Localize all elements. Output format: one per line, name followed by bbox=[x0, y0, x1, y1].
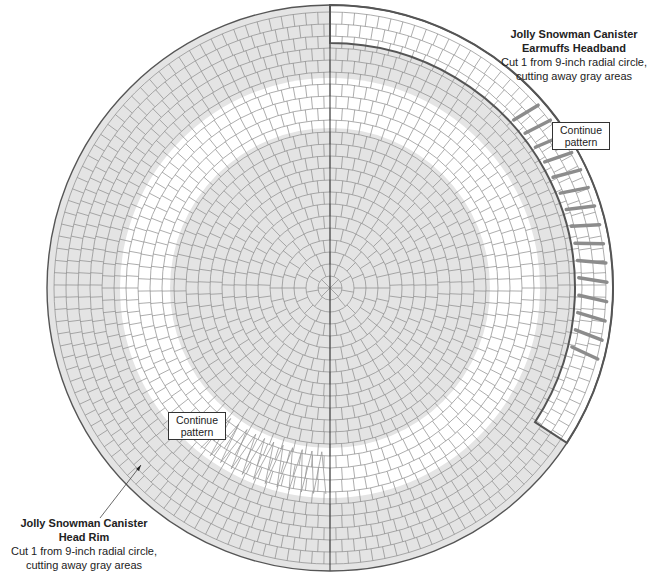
callout-line1: Continue bbox=[556, 124, 606, 136]
rim-label: Jolly Snowman Canister Head Rim Cut 1 fr… bbox=[0, 516, 168, 572]
radial-circle-pattern bbox=[0, 0, 660, 585]
headband-desc-line2: cutting away gray areas bbox=[488, 69, 660, 83]
callout-line2: pattern bbox=[172, 426, 222, 438]
callout-line1: Continue bbox=[172, 414, 222, 426]
callout-line2: pattern bbox=[556, 136, 606, 148]
rim-desc-line1: Cut 1 from 9-inch radial circle, bbox=[0, 544, 168, 558]
rim-continue-pattern-callout: Continue pattern bbox=[168, 412, 226, 440]
headband-title-line1: Jolly Snowman Canister bbox=[488, 27, 660, 41]
headband-title-line2: Earmuffs Headband bbox=[488, 41, 660, 55]
headband-continue-pattern-callout: Continue pattern bbox=[552, 122, 610, 150]
headband-label: Jolly Snowman Canister Earmuffs Headband… bbox=[488, 27, 660, 83]
rim-desc-line2: cutting away gray areas bbox=[0, 558, 168, 572]
headband-desc-line1: Cut 1 from 9-inch radial circle, bbox=[488, 55, 660, 69]
rim-title-line2: Head Rim bbox=[0, 530, 168, 544]
rim-title-line1: Jolly Snowman Canister bbox=[0, 516, 168, 530]
